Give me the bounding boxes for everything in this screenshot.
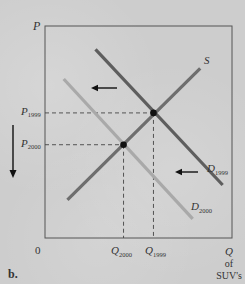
x-axis-label: Q bbox=[225, 245, 233, 257]
demand-curve-2000 bbox=[64, 79, 193, 219]
demand-shift-arrow-bottom-icon bbox=[175, 169, 182, 175]
demand-shift-arrow-top-icon bbox=[91, 85, 98, 91]
demand-2000-label: D2000 bbox=[190, 200, 212, 214]
x-axis-label-suvs: SUV's bbox=[216, 270, 242, 281]
quantity-label-1999: Q1999 bbox=[145, 244, 166, 258]
supply-curve-label: S bbox=[204, 54, 210, 66]
x-axis-label-of: of bbox=[225, 258, 234, 269]
price-label-2000: P2000 bbox=[20, 137, 41, 151]
price-label-1999: P1999 bbox=[20, 105, 41, 119]
origin-label: 0 bbox=[35, 244, 41, 256]
y-axis-label: P bbox=[32, 19, 41, 33]
quantity-label-2000: Q2000 bbox=[111, 244, 132, 258]
demand-1999-label: D1999 bbox=[206, 162, 228, 176]
equilibrium-point-2000 bbox=[120, 141, 127, 148]
price-fall-arrow-icon bbox=[10, 170, 17, 178]
panel-label: b. bbox=[8, 267, 18, 281]
supply-demand-diagram: P 0 Q of SUV's b. SD1999D2000P1999P2000Q… bbox=[0, 0, 245, 284]
equilibrium-point-1999 bbox=[150, 110, 157, 117]
demand-curve-1999 bbox=[95, 49, 222, 185]
